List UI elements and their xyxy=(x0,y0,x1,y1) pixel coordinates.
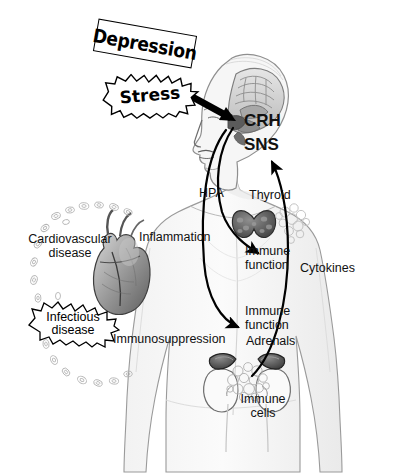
label-thyroid: Thyroid xyxy=(249,189,291,203)
label-immune-function-upper-line2: function xyxy=(245,259,317,273)
callout-stress[interactable]: Stress xyxy=(97,68,203,125)
label-inflammation: Inflammation xyxy=(139,231,211,245)
figure-canvas: Depression Stress Infectious disease CRH… xyxy=(0,0,393,474)
callout-infectious-text: Infectious disease xyxy=(26,300,120,348)
label-immune-function-lower-line1: Immune xyxy=(245,305,317,319)
callout-infectious-line2: disease xyxy=(51,324,94,337)
callout-stress-text: Stress xyxy=(97,68,203,125)
label-cardiovascular-line2: disease xyxy=(20,247,120,261)
label-adrenals: Adrenals xyxy=(246,335,295,349)
callout-infectious-disease[interactable]: Infectious disease xyxy=(26,300,120,348)
label-sns: SNS xyxy=(244,136,279,154)
callout-stress-label: Stress xyxy=(119,84,181,107)
label-crh: CRH xyxy=(244,112,281,130)
label-cardiovascular-line1: Cardiovascular xyxy=(20,233,120,247)
label-immune-cells-line2: cells xyxy=(228,407,298,421)
label-immune-function-lower-line2: function xyxy=(245,319,317,333)
label-cardiovascular-disease: Cardiovascular disease xyxy=(20,233,120,260)
label-hpa: HPA xyxy=(199,187,224,201)
label-immune-function-upper: Immune function xyxy=(245,245,317,272)
label-immune-cells-line1: Immune xyxy=(228,393,298,407)
label-immune-function-upper-line1: Immune xyxy=(245,245,317,259)
label-immune-function-lower: Immune function xyxy=(245,305,317,332)
heart-illustration xyxy=(94,210,150,314)
label-immunosuppression: Immunosuppression xyxy=(113,333,226,347)
label-immune-cells: Immune cells xyxy=(228,393,298,420)
